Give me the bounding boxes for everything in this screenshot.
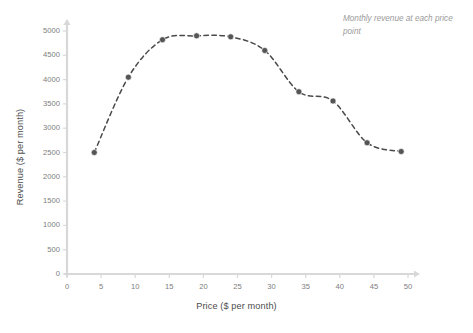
data-point-marker [91, 150, 97, 156]
x-axis-title: Price ($ per month) [0, 301, 473, 311]
data-point-marker [296, 89, 302, 95]
revenue-price-chart: 0500100015002000250030003500400045005000… [0, 0, 473, 333]
data-point-marker [125, 74, 131, 80]
data-point-marker [159, 37, 165, 43]
data-point-marker [398, 149, 404, 155]
y-tick-label: 0 [18, 269, 60, 278]
x-tick-label: 45 [362, 282, 386, 291]
y-axis-title: Revenue ($ per month) [15, 67, 25, 247]
x-tick-label: 50 [396, 282, 420, 291]
x-tick-label: 20 [191, 282, 215, 291]
x-tick-label: 25 [226, 282, 250, 291]
x-tick-label: 15 [157, 282, 181, 291]
axes-layer [63, 19, 420, 278]
x-tick-label: 40 [328, 282, 352, 291]
data-point-marker [364, 140, 370, 146]
x-axis-arrow-icon [414, 270, 420, 277]
y-tick-label: 5000 [18, 26, 60, 35]
tick-marks-layer [63, 31, 408, 278]
data-point-marker [262, 47, 268, 53]
data-point-marker [228, 34, 234, 40]
x-tick-label: 0 [55, 282, 79, 291]
x-tick-label: 10 [123, 282, 147, 291]
data-point-marker [330, 98, 336, 104]
data-series-layer [94, 35, 401, 152]
y-axis-arrow-icon [63, 19, 70, 25]
y-tick-label: 4500 [18, 50, 60, 59]
revenue-line [94, 35, 401, 152]
x-tick-label: 5 [89, 282, 113, 291]
x-tick-label: 35 [294, 282, 318, 291]
data-point-marker [194, 33, 200, 39]
x-tick-label: 30 [260, 282, 284, 291]
chart-annotation: Monthly revenue at each price point [343, 12, 465, 38]
data-markers-layer [91, 33, 404, 156]
